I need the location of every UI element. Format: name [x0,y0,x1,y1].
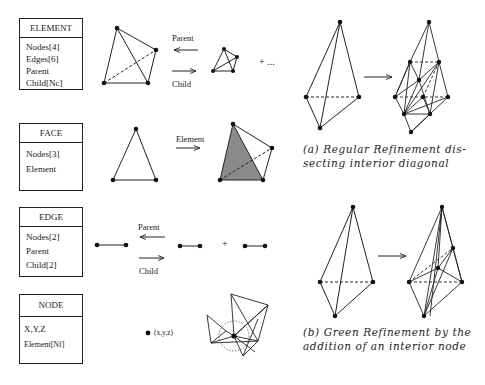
element-parent-label: Parent [172,33,194,43]
element-more-label: + ... [259,56,275,67]
tetrahedron-icon [102,26,159,86]
edge-child-label: Child [139,266,158,276]
face-element-label: Element [176,134,204,144]
regular-refined-tetrahedron-icon [393,20,450,134]
child-tetrahedron-icon [211,47,239,73]
caption-b: (b) Green Refinement by the addition of … [303,325,485,353]
node-coord-label: (x,y,z) [154,328,173,337]
triangle-icon [111,127,159,183]
original-tetrahedron-b-icon [318,205,376,319]
edge-segment-icon [95,243,129,248]
edge-parent-label: Parent [138,222,160,232]
green-refined-tetrahedron-icon [407,205,464,318]
edge-plus-label: + [222,238,228,249]
node-point-icon [146,331,151,336]
caption-b-line1: (b) Green Refinement by the [303,325,485,339]
original-tetrahedron-a-icon [304,20,362,131]
element-child-label: Child [172,79,191,89]
caption-b-line2: addition of an interior node [303,339,485,353]
caption-a-line1: (a) Regular Refinement dis- [303,142,485,156]
caption-a: (a) Regular Refinement dis- secting inte… [303,142,485,170]
caption-a-line2: secting interior diagonal [303,156,485,170]
node-star-icon [207,294,268,356]
shaded-face-tetrahedron-icon [218,122,275,183]
